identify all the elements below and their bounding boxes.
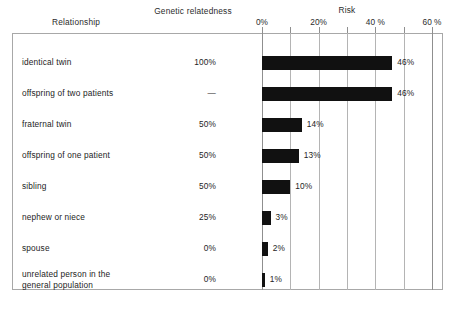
table-row: unrelated person in the general populati… [0,265,459,296]
risk-by-relationship-chart: Relationship Genetic relatedness Risk 0%… [0,0,459,309]
risk-bar [262,56,392,70]
axis-tick-label-0: 0% [256,17,268,27]
risk-bar [262,87,392,101]
risk-bar [262,118,302,132]
axis-tick-20 [319,27,320,33]
axis-tick-30 [347,27,348,33]
row-label-relationship: fraternal twin [22,119,72,130]
risk-bar [262,273,265,287]
row-label-relationship: offspring of one patient [22,150,110,161]
table-row: sibling50%10% [0,172,459,203]
axis-tick-0 [262,27,263,33]
row-value-genetic-relatedness: — [146,88,216,98]
table-row: offspring of two patients—46% [0,79,459,110]
row-value-genetic-relatedness: 0% [146,243,216,253]
risk-bar [262,242,268,256]
row-value-genetic-relatedness: 0% [146,274,216,284]
risk-bar-value-label: 46% [397,57,414,67]
column-header-genetic-relatedness: Genetic relatedness [150,6,236,17]
axis-tick-label-60: 60 % [423,17,442,27]
risk-bar-value-label: 14% [307,119,324,129]
risk-bar [262,149,299,163]
row-value-genetic-relatedness: 100% [146,57,216,67]
row-label-relationship: identical twin [22,57,72,68]
axis-tick-60 [432,27,433,33]
column-header-relationship: Relationship [52,17,100,27]
risk-bar [262,211,271,225]
axis-tick-40 [375,27,376,33]
risk-bar-value-label: 3% [276,212,288,222]
risk-bar [262,180,290,194]
row-label-relationship: sibling [22,181,47,192]
row-label-relationship: nephew or niece [22,212,85,223]
row-value-genetic-relatedness: 25% [146,212,216,222]
risk-bar-value-label: 1% [270,274,282,284]
axis-tick-label-20: 20% [310,17,327,27]
row-label-relationship: offspring of two patients [22,88,113,99]
table-row: spouse0%2% [0,234,459,265]
risk-bar-value-label: 13% [304,150,321,160]
row-value-genetic-relatedness: 50% [146,181,216,191]
table-row: nephew or niece25%3% [0,203,459,234]
risk-bar-value-label: 46% [397,88,414,98]
row-value-genetic-relatedness: 50% [146,150,216,160]
risk-bar-value-label: 2% [273,243,285,253]
row-value-genetic-relatedness: 50% [146,119,216,129]
risk-bar-value-label: 10% [295,181,312,191]
table-row: fraternal twin50%14% [0,110,459,141]
row-label-relationship: spouse [22,243,50,254]
row-label-relationship: unrelated person in the general populati… [22,269,110,290]
axis-tick-10 [290,27,291,33]
table-row: offspring of one patient50%13% [0,141,459,172]
axis-tick-label-40: 40 % [366,17,385,27]
column-header-risk: Risk [312,5,382,15]
axis-tick-50 [404,27,405,33]
table-row: identical twin100%46% [0,48,459,79]
